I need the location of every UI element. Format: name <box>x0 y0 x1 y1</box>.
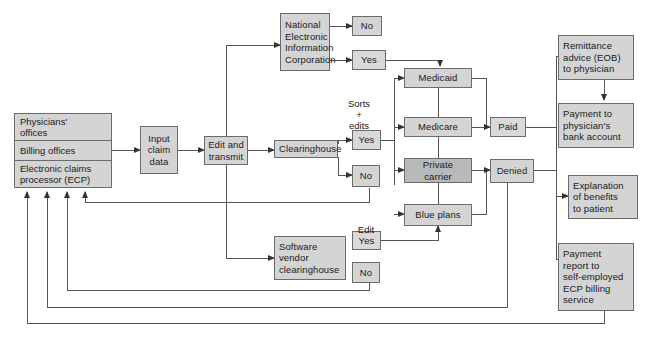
node-denied[interactable]: Denied <box>490 159 534 183</box>
node-payment-to-bank-account[interactable]: Payment to physician's bank account <box>558 103 634 148</box>
node-national-electronic-information-corporation[interactable]: National Electronic Information Corporat… <box>280 13 330 71</box>
node-software-vendor-clearinghouse[interactable]: Software vendor clearinghouse <box>274 236 346 280</box>
source-billing-offices[interactable]: Billing offices <box>15 140 111 160</box>
node-clearinghouse[interactable]: Clearinghouse <box>274 140 338 158</box>
label-sorts-plus-edits: Sorts + edits <box>338 98 380 131</box>
node-payment-report-ecp[interactable]: Payment report to self-employed ECP bill… <box>558 243 634 311</box>
node-neic-no[interactable]: No <box>352 16 382 36</box>
node-edit-and-transmit[interactable]: Edit and transmit <box>204 136 248 165</box>
source-physicians-offices[interactable]: Physicians' offices <box>15 114 111 140</box>
node-input-claim-data[interactable]: Input claim data <box>140 126 178 174</box>
flowchart-canvas: Physicians' offices Billing offices Elec… <box>0 0 648 339</box>
node-paid[interactable]: Paid <box>490 117 526 137</box>
node-medicare[interactable]: Medicare <box>404 117 472 137</box>
node-neic-yes[interactable]: Yes <box>352 50 386 70</box>
node-clearinghouse-no[interactable]: No <box>352 165 380 187</box>
label-edit: Edit <box>348 224 384 235</box>
node-software-vendor-no[interactable]: No <box>352 262 380 283</box>
node-medicaid[interactable]: Medicaid <box>404 68 472 88</box>
claim-sources-group: Physicians' offices Billing offices Elec… <box>14 113 112 188</box>
node-remittance-advice[interactable]: Remittance advice (EOB) to physician <box>558 35 634 80</box>
node-private-carrier[interactable]: Private carrier <box>404 158 472 183</box>
node-clearinghouse-yes[interactable]: Yes <box>352 130 381 150</box>
node-explanation-of-benefits[interactable]: Explanation of benefits to patient <box>568 175 638 219</box>
node-blue-plans[interactable]: Blue plans <box>404 204 472 226</box>
source-electronic-claims-processor[interactable]: Electronic claims processor (ECP) <box>15 160 111 187</box>
